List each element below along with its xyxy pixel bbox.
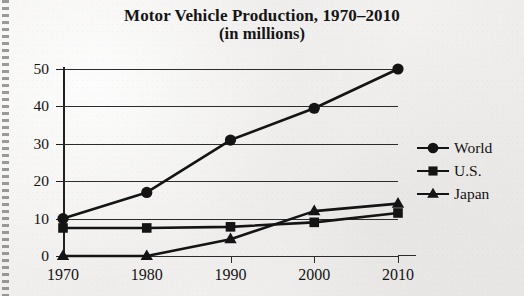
circle-marker-icon [416, 138, 450, 158]
legend-label: Japan [450, 185, 489, 203]
series-world [57, 63, 403, 224]
legend-item-u-s[interactable]: U.S. [416, 159, 520, 182]
data-point-1980 [141, 187, 152, 198]
data-point-2010 [393, 208, 403, 218]
legend-marker [426, 164, 440, 178]
data-point-2000 [309, 218, 319, 228]
chart-page: Motor Vehicle Production, 1970–2010 (in … [0, 0, 524, 296]
legend-label: U.S. [450, 162, 482, 180]
chart-legend: WorldU.S.Japan [416, 136, 520, 205]
triangle-marker-icon [416, 184, 450, 204]
series-u-s [58, 208, 403, 233]
data-point-1970 [57, 213, 68, 224]
legend-marker [426, 187, 440, 201]
data-point-1970 [58, 223, 68, 233]
legend-marker [426, 141, 440, 155]
data-point-1990 [225, 134, 236, 145]
square-marker-icon [416, 161, 450, 181]
data-point-2010 [392, 63, 403, 74]
legend-label: World [450, 139, 492, 157]
legend-item-japan[interactable]: Japan [416, 182, 520, 205]
data-point-1980 [142, 223, 152, 233]
data-point-2000 [309, 103, 320, 114]
legend-item-world[interactable]: World [416, 136, 520, 159]
data-point-1990 [226, 222, 236, 232]
data-point-2010 [392, 197, 404, 208]
